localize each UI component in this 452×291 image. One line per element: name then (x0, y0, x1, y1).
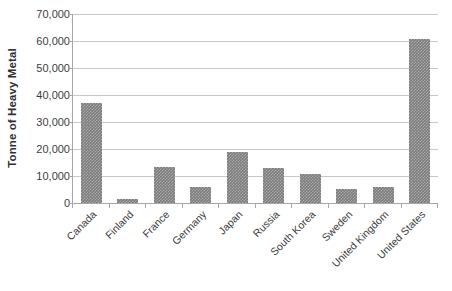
x-axis-category-label-text: Sweden (319, 208, 354, 243)
x-axis-category-label-text: Germany (169, 208, 208, 247)
y-axis-tick-label: 30,000 (18, 116, 70, 128)
bars-layer (73, 14, 438, 203)
y-axis-tick-label: 70,000 (18, 8, 70, 20)
bar (263, 168, 284, 203)
y-axis-tick-label: 50,000 (18, 62, 70, 74)
x-axis-category-label-text: Russia (250, 208, 281, 239)
x-axis-category-label-text: France (140, 208, 172, 240)
y-axis-title-text: Tonne of Heavy Metal (6, 48, 18, 167)
bar-chart: Tonne of Heavy Metal 010,00020,00030,000… (0, 0, 452, 291)
y-axis-tick-label: 20,000 (18, 143, 70, 155)
y-axis-tick-labels: 010,00020,00030,00040,00050,00060,00070,… (18, 7, 70, 207)
bar (81, 103, 102, 203)
x-axis-category-labels: CanadaFinlandFranceGermanyJapanRussiaSou… (0, 208, 452, 291)
y-axis-tick-label: 60,000 (18, 35, 70, 47)
x-axis-category-label-text: Japan (216, 208, 245, 237)
plot-area (72, 14, 438, 204)
x-axis-category-label-text: Canada (64, 208, 98, 242)
y-axis-tick-label: 10,000 (18, 170, 70, 182)
y-axis-tick-label: 40,000 (18, 89, 70, 101)
x-axis-category-label-text: Finland (102, 208, 135, 241)
